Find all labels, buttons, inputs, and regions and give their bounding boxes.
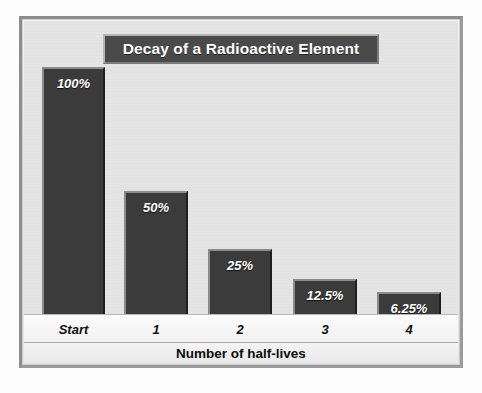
bar-1: 50%	[124, 191, 188, 314]
chart-frame: Decay of a Radioactive Element 100% 50% …	[19, 16, 463, 368]
x-tick-3: 3	[293, 315, 357, 343]
bar-value-label: 100%	[57, 76, 90, 91]
bar-start: 100%	[42, 67, 105, 314]
x-tick-2: 2	[208, 315, 272, 343]
plot-area: Decay of a Radioactive Element 100% 50% …	[24, 21, 458, 314]
bar-3: 12.5%	[293, 279, 357, 314]
bar-value-label: 12.5%	[307, 288, 344, 303]
x-tick-4: 4	[377, 315, 441, 343]
x-axis-title: Number of half-lives	[176, 346, 306, 361]
chart-figure: Decay of a Radioactive Element 100% 50% …	[0, 0, 482, 393]
x-tick-1: 1	[124, 315, 188, 343]
bar-series: 100% 50% 25% 12.5% 6.25%	[24, 21, 458, 314]
bar-value-label: 25%	[227, 258, 253, 273]
chart-frame-inner: Decay of a Radioactive Element 100% 50% …	[22, 19, 460, 365]
x-axis-tick-band: Start 1 2 3 4	[24, 314, 458, 343]
x-tick-start: Start	[42, 315, 105, 343]
bar-4: 6.25%	[377, 292, 441, 314]
x-axis-title-band: Number of half-lives	[24, 342, 458, 363]
bar-2: 25%	[208, 249, 272, 314]
bar-value-label: 50%	[143, 200, 169, 215]
